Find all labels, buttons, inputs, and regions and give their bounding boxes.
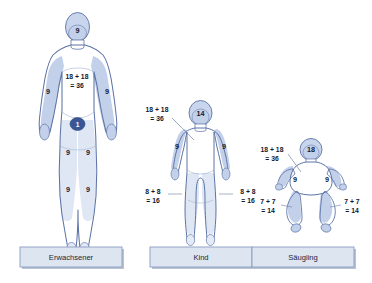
infant-head-label: 18 xyxy=(307,145,315,154)
caption-child[interactable]: Kind xyxy=(150,247,254,269)
infant-hand-left xyxy=(275,184,282,190)
infant-leg-right-label-line2: = 14 xyxy=(345,207,359,214)
adult-thigh-right-label: 9 xyxy=(86,148,90,157)
child-torso-label-line1: 18 + 18 xyxy=(146,106,169,113)
adult-thigh-left-label: 9 xyxy=(66,148,70,157)
child-leg-left-label-line2: = 16 xyxy=(146,197,160,204)
adult-hand-left xyxy=(40,124,50,140)
adult-hand-right xyxy=(107,124,117,140)
infant-arm-right-label: 9 xyxy=(325,175,329,184)
adult-torso-label-line1: 18 + 18 xyxy=(66,73,89,80)
adult-arm-right-label: 9 xyxy=(105,87,109,96)
infant-torso-label-line2: = 36 xyxy=(265,155,279,162)
adult-shin-left-label: 9 xyxy=(66,185,70,194)
infant-torso-label-line1: 18 + 18 xyxy=(261,146,284,153)
child-hand-left xyxy=(171,168,179,180)
child-leg-right-label-line1: 8 + 8 xyxy=(240,188,256,195)
child-foot-right xyxy=(206,235,214,246)
adult-head-label: 9 xyxy=(76,26,80,35)
child-torso-label-line2: = 36 xyxy=(150,115,164,122)
child-arm-right-label: 9 xyxy=(222,142,226,151)
rule-of-nines-diagram: 1 9 18 + 18 = 36 9 9 9 9 9 9 xyxy=(0,0,372,283)
infant-arm-left-label: 9 xyxy=(293,175,297,184)
caption-infant[interactable]: Säugling xyxy=(252,247,356,269)
child-leg-right-label-line2: = 16 xyxy=(241,197,255,204)
child-foot-left xyxy=(186,235,194,246)
child-head-label: 14 xyxy=(197,109,205,118)
caption-child-label: Kind xyxy=(193,253,208,262)
child-hand-right xyxy=(222,168,230,180)
infant-leg-right-label-line1: 7 + 7 xyxy=(344,198,360,205)
infant-leg-left-label-line1: 7 + 7 xyxy=(260,198,276,205)
infant-hand-right xyxy=(339,184,346,190)
adult-shin-right-label: 9 xyxy=(86,185,90,194)
child-arm-left-label: 9 xyxy=(175,142,179,151)
caption-infant-label: Säugling xyxy=(288,253,318,262)
caption-adult[interactable]: Erwachsener xyxy=(20,247,124,269)
adult-arm-left-label: 9 xyxy=(46,87,50,96)
caption-adult-label: Erwachsener xyxy=(49,253,94,262)
adult-groin-label: 1 xyxy=(76,121,80,128)
infant-leg-left-label-line2: = 14 xyxy=(261,207,275,214)
child-leg-left-label-line1: 8 + 8 xyxy=(145,188,161,195)
adult-torso-label-line2: = 36 xyxy=(70,82,84,89)
